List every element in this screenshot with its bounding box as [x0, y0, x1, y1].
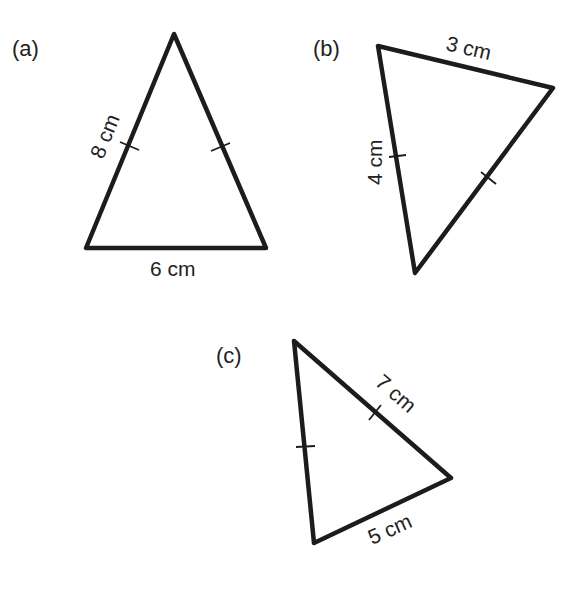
- side-label-a-base: 6 cm: [150, 257, 196, 280]
- triangle-b: [378, 46, 553, 273]
- side-label-b-top: 3 cm: [444, 31, 494, 64]
- figure-a: (a) 8 cm 6 cm: [12, 34, 266, 280]
- figure-b: (b) 3 cm 4 cm: [313, 31, 553, 273]
- equal-tick-c-left: [296, 446, 315, 447]
- side-label-b-left: 4 cm: [363, 139, 386, 185]
- equal-tick-b-left: [389, 155, 406, 157]
- side-label-a-left: 8 cm: [85, 111, 123, 162]
- triangle-c: [294, 341, 451, 543]
- figure-c: (c) 7 cm 5 cm: [216, 341, 451, 549]
- figure-a-label: (a): [12, 36, 39, 61]
- figure-b-label: (b): [313, 36, 340, 61]
- figure-c-label: (c): [216, 343, 242, 368]
- side-label-c-right: 7 cm: [371, 370, 420, 417]
- triangles-diagram: (a) 8 cm 6 cm (b) 3 cm 4 cm (c) 7 cm 5 c…: [0, 0, 588, 593]
